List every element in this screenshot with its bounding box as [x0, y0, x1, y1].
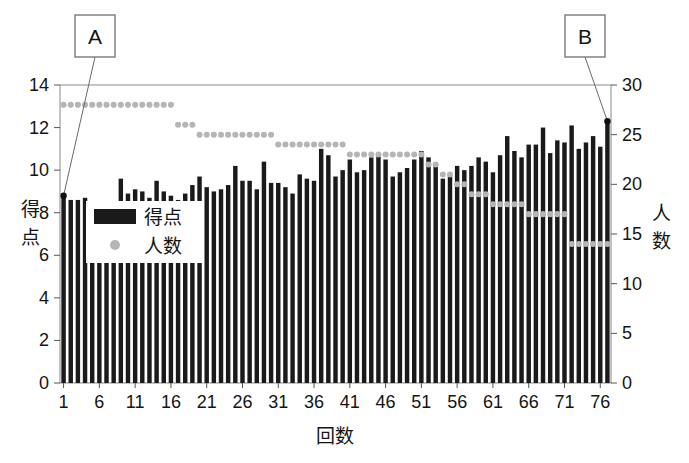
- x-tick-label: 26: [232, 392, 252, 412]
- data-point: [332, 142, 338, 148]
- data-point: [511, 201, 517, 207]
- data-point: [597, 241, 603, 247]
- bar: [577, 149, 581, 383]
- bar: [433, 166, 437, 383]
- bar: [240, 181, 244, 383]
- bar: [562, 142, 566, 383]
- data-point: [325, 142, 331, 148]
- data-point: [311, 142, 317, 148]
- y-left-tick-label: 0: [39, 373, 49, 393]
- chart-legend: 得点 人数: [86, 201, 202, 263]
- callout-a-label: A: [88, 25, 102, 48]
- y-right-tick-label: 5: [622, 323, 632, 343]
- x-tick-label: 76: [590, 392, 610, 412]
- data-point: [519, 201, 525, 207]
- data-point: [561, 211, 567, 217]
- legend-swatch-attendance: [110, 240, 120, 250]
- bar: [383, 160, 387, 384]
- callout-a-anchor-dot: [60, 192, 66, 198]
- y-left-tick-label: 8: [39, 203, 49, 223]
- data-point: [161, 102, 167, 108]
- data-point: [590, 241, 596, 247]
- x-tick-label: 16: [161, 392, 181, 412]
- bar: [419, 151, 423, 383]
- x-tick-label: 1: [59, 392, 69, 412]
- bar: [355, 172, 359, 383]
- data-point: [497, 201, 503, 207]
- data-point: [375, 152, 381, 158]
- data-point: [261, 132, 267, 138]
- y-left-tick-label: 4: [39, 288, 49, 308]
- y-left-tick-label: 14: [29, 75, 49, 95]
- data-point: [583, 241, 589, 247]
- y-right-tick-label: 30: [622, 75, 642, 95]
- bar: [512, 151, 516, 383]
- bar: [412, 160, 416, 384]
- data-point: [225, 132, 231, 138]
- data-point: [604, 241, 610, 247]
- data-point: [146, 102, 152, 108]
- data-point: [239, 132, 245, 138]
- bar: [226, 185, 230, 383]
- data-point: [282, 142, 288, 148]
- data-point: [318, 142, 324, 148]
- x-tick-label: 31: [268, 392, 288, 412]
- callout-b-label: B: [578, 25, 592, 48]
- x-tick-label: 41: [340, 392, 360, 412]
- bar: [498, 155, 502, 383]
- bar: [333, 177, 337, 383]
- data-point: [154, 102, 160, 108]
- y-right-tick-label: 15: [622, 224, 642, 244]
- data-point: [433, 161, 439, 167]
- data-point: [440, 171, 446, 177]
- data-point: [75, 102, 81, 108]
- bar: [348, 160, 352, 384]
- legend-label-score: 得点: [144, 207, 182, 228]
- bar: [441, 179, 445, 383]
- data-point: [168, 102, 174, 108]
- data-point: [504, 201, 510, 207]
- bar: [233, 166, 237, 383]
- callout-b-anchor-dot: [604, 118, 610, 124]
- data-point: [297, 142, 303, 148]
- data-point: [540, 211, 546, 217]
- bar: [312, 181, 316, 383]
- data-point: [404, 152, 410, 158]
- bar: [290, 194, 294, 383]
- x-tick-label: 36: [304, 392, 324, 412]
- bar: [326, 155, 330, 383]
- bar: [391, 177, 395, 383]
- chart-container: 02468101214 051015202530 161116212631364…: [0, 0, 689, 463]
- data-point: [182, 122, 188, 128]
- data-point: [68, 102, 74, 108]
- y-left-tick-label: 12: [29, 118, 49, 138]
- y-axis-right-title-line2: 数: [652, 231, 671, 252]
- data-point: [347, 152, 353, 158]
- bar: [340, 170, 344, 383]
- data-point: [111, 102, 117, 108]
- bar: [269, 183, 273, 383]
- data-point: [490, 201, 496, 207]
- data-point: [454, 181, 460, 187]
- data-point: [268, 132, 274, 138]
- data-point: [426, 161, 432, 167]
- x-tick-label: 66: [519, 392, 539, 412]
- bar: [519, 157, 523, 383]
- bar: [262, 162, 266, 383]
- data-point: [354, 152, 360, 158]
- bar: [426, 157, 430, 383]
- y-axis-right-title-line1: 人: [652, 203, 671, 224]
- bar: [276, 183, 280, 383]
- bar: [534, 145, 538, 383]
- legend-swatch-score: [94, 209, 136, 224]
- y-right-tick-label: 25: [622, 125, 642, 145]
- bar: [541, 128, 545, 383]
- score-attendance-combo-chart: 02468101214 051015202530 161116212631364…: [0, 0, 689, 463]
- bar: [398, 172, 402, 383]
- bar: [298, 174, 302, 383]
- bar: [219, 189, 223, 383]
- data-point: [340, 142, 346, 148]
- y-axis-left-title-line2: 点: [21, 227, 40, 248]
- bar: [255, 189, 259, 383]
- data-point: [569, 241, 575, 247]
